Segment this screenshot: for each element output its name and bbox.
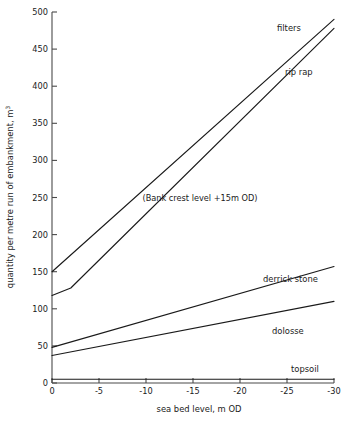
x-tick-label: -5 [95,386,103,396]
y-tick-label: 0 [43,378,48,388]
x-tick-label: -30 [327,386,340,396]
y-tick-label: 500 [32,7,48,17]
series-label-topsoil: topsoil [291,364,319,374]
series-label-filters: filters [277,23,301,33]
x-axis-title: sea bed level, m OD [157,404,242,414]
y-tick-label: 250 [32,193,48,203]
x-tick-label: 0 [49,386,54,396]
series-line-filters [52,19,334,271]
y-axis: 0 50 100 150 200 250 300 350 400 450 500… [5,7,57,388]
y-axis-tick-labels: 0 50 100 150 200 250 300 350 400 450 500 [32,7,48,388]
bank-crest-annotation: (Bank crest level +15m OD) [142,193,257,203]
y-axis-ticks [52,12,57,383]
y-tick-label: 350 [32,118,48,128]
y-tick-label: 50 [38,341,48,351]
series-label-rip-rap: rip rap [285,67,313,77]
y-tick-label: 200 [32,230,48,240]
y-tick-label: 400 [32,81,48,91]
y-axis-title-group: quantity per metre run of embankment, m3 [5,106,15,289]
y-axis-title: quantity per metre run of embankment, m3 [5,106,15,289]
y-tick-label: 100 [32,304,48,314]
y-tick-label: 450 [32,44,48,54]
chart-figure: 0 50 100 150 200 250 300 350 400 450 500… [0,0,349,446]
x-axis-tick-labels: 0 -5 -10 -15 -20 -25 -30 [49,386,340,396]
chart-svg: 0 50 100 150 200 250 300 350 400 450 500… [0,0,349,446]
y-tick-label: 150 [32,267,48,277]
series-label-dolosse: dolosse [272,326,304,336]
series-label-derrick-stone: derrick stone [263,274,318,284]
y-tick-label: 300 [32,155,48,165]
x-axis: 0 -5 -10 -15 -20 -25 -30 sea bed level, … [49,378,340,414]
x-tick-label: -25 [280,386,293,396]
x-tick-label: -20 [233,386,246,396]
x-tick-label: -10 [139,386,152,396]
x-tick-label: -15 [186,386,199,396]
